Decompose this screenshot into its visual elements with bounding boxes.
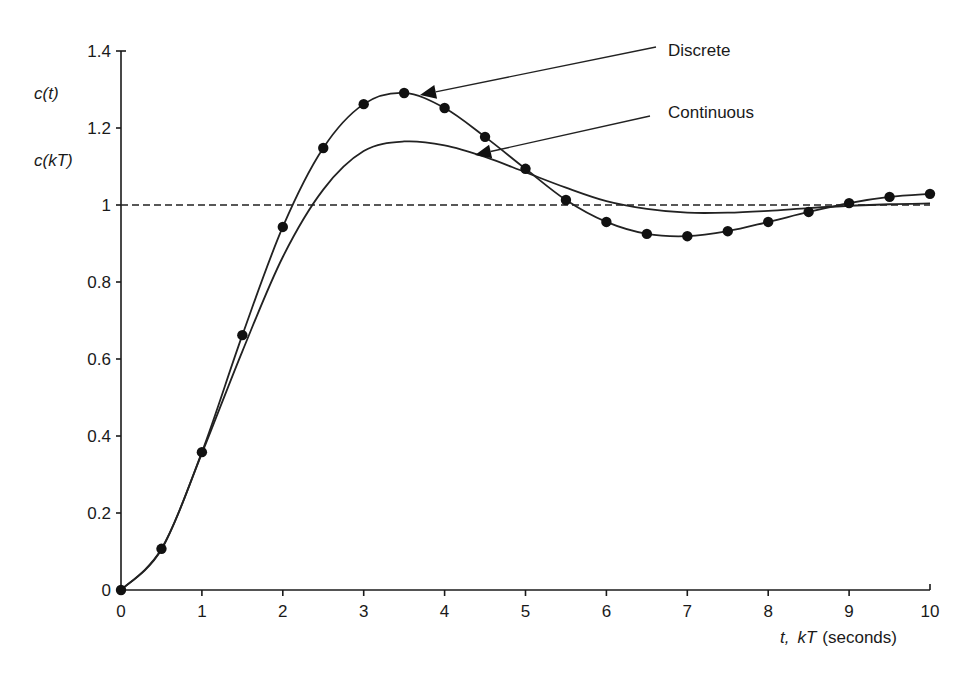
discrete-point: [682, 231, 692, 241]
discrete-point: [318, 143, 328, 153]
discrete-sample-points: [116, 88, 935, 595]
x-axis-label-t: t,: [780, 628, 789, 647]
x-tick-label: 7: [683, 602, 692, 621]
x-tick-label: 3: [359, 602, 368, 621]
discrete-point: [237, 330, 247, 340]
x-tick-label: 6: [602, 602, 611, 621]
annotation-label-continuous: Continuous: [668, 103, 754, 122]
discrete-point: [520, 164, 530, 174]
discrete-point: [156, 544, 166, 554]
x-tick-label: 4: [440, 602, 449, 621]
y-axis-label-ct: c(t): [34, 84, 59, 103]
y-tick-label: 0.4: [87, 427, 111, 446]
discrete-point: [642, 229, 652, 239]
discrete-point: [844, 198, 854, 208]
x-tick-label: 8: [763, 602, 772, 621]
annotation-leader-line: [436, 47, 656, 92]
discrete-point: [278, 222, 288, 232]
discrete-point: [925, 189, 935, 199]
y-tick-label: 1.2: [87, 119, 111, 138]
discrete-point: [884, 192, 894, 202]
discrete-point: [439, 103, 449, 113]
arrowhead-icon: [475, 145, 492, 159]
y-tick-label: 0.8: [87, 273, 111, 292]
discrete-point: [399, 88, 409, 98]
x-tick-label: 2: [278, 602, 287, 621]
x-axis-label-unit: (seconds): [822, 628, 897, 647]
y-tick-label: 0: [102, 581, 111, 600]
discrete-point: [803, 207, 813, 217]
discrete-point: [601, 217, 611, 227]
step-response-chart: 00.20.40.60.811.21.4 012345678910 Discre…: [0, 0, 972, 688]
x-tick-label: 5: [521, 602, 530, 621]
annotation-leader-line: [491, 116, 650, 152]
x-tick-label: 0: [116, 602, 125, 621]
y-axis-ticks: 00.20.40.60.811.21.4: [87, 42, 121, 600]
discrete-point: [116, 585, 126, 595]
x-axis-label: t,kT(seconds): [780, 628, 897, 647]
discrete-point: [723, 226, 733, 236]
discrete-point: [197, 447, 207, 457]
annotation-label-discrete: Discrete: [668, 41, 730, 60]
x-tick-label: 1: [197, 602, 206, 621]
y-tick-label: 1.4: [87, 42, 111, 61]
x-tick-label: 10: [921, 602, 940, 621]
discrete-point: [561, 195, 571, 205]
y-tick-label: 1: [102, 196, 111, 215]
x-tick-label: 9: [844, 602, 853, 621]
discrete-point: [359, 99, 369, 109]
discrete-point: [763, 217, 773, 227]
annotations: DiscreteContinuous: [420, 41, 754, 158]
discrete-point: [480, 132, 490, 142]
y-tick-label: 0.6: [87, 350, 111, 369]
axes: [121, 51, 930, 590]
y-tick-label: 0.2: [87, 504, 111, 523]
x-axis-ticks: 012345678910: [116, 590, 939, 621]
y-axis-label-ckt: c(kT): [34, 151, 73, 170]
x-axis-label-kt: kT: [797, 628, 818, 647]
